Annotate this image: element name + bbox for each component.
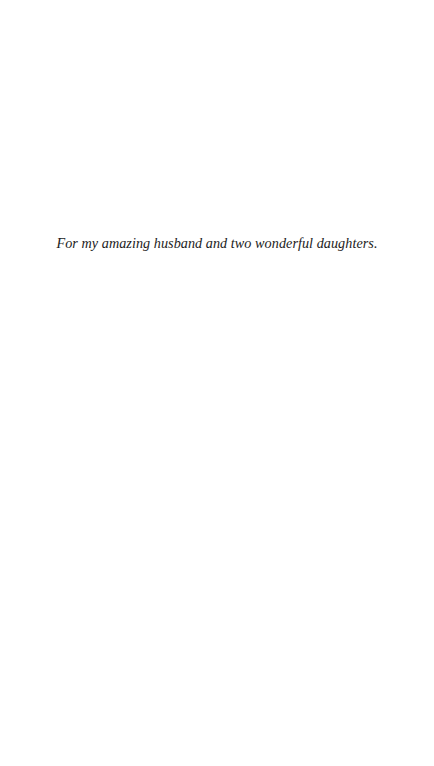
book-page: For my amazing husband and two wonderful… [0, 0, 434, 766]
dedication-text: For my amazing husband and two wonderful… [0, 233, 434, 253]
